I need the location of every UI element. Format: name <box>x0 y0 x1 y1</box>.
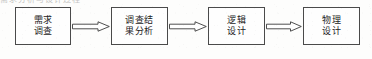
block-arrow-icon <box>72 21 110 32</box>
node-label-line-1: 需求 <box>34 15 53 26</box>
node-label-line-2: 果分析 <box>125 26 154 37</box>
node-label-line-2: 设计 <box>227 26 246 37</box>
cut-off-text-above: 需求分析与设计过程 <box>0 0 372 4</box>
arrow-requirement-survey-to-survey-result-analysis <box>72 21 110 32</box>
node-label-line-1: 逻辑 <box>227 15 246 26</box>
block-arrow-icon <box>169 21 207 32</box>
node-label-line-2: 设计 <box>322 26 341 37</box>
arrow-survey-result-analysis-to-logical-design <box>169 21 207 32</box>
arrow-logical-design-to-physical-design <box>266 21 302 32</box>
node-label-line-2: 调查 <box>34 26 53 37</box>
flowchart-diagram: 需求分析与设计过程 需求 调查 调查结 果分析 逻辑 设计 物理 设计 <box>0 0 372 59</box>
block-arrow-icon <box>266 21 302 32</box>
node-label-line-1: 调查结 <box>125 15 154 26</box>
node-survey-result-analysis[interactable]: 调查结 果分析 <box>111 7 168 45</box>
node-requirement-survey[interactable]: 需求 调查 <box>15 7 71 45</box>
node-physical-design[interactable]: 物理 设计 <box>303 7 360 45</box>
node-logical-design[interactable]: 逻辑 设计 <box>208 7 265 45</box>
node-label-line-1: 物理 <box>322 15 341 26</box>
cut-off-text-label: 需求分析与设计过程 <box>0 0 81 4</box>
